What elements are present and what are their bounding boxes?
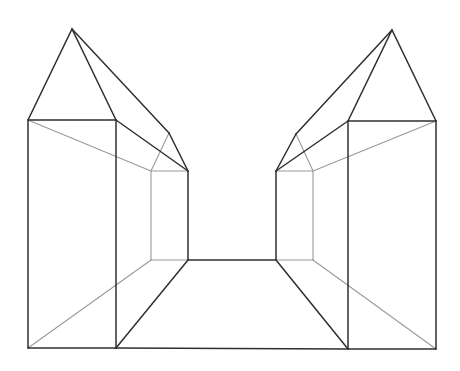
left-hidden-roof-diagonal — [28, 120, 151, 171]
left-roof-back-edge — [169, 133, 188, 171]
right-side-eave — [276, 121, 348, 171]
right-hidden-roof-back — [296, 134, 313, 171]
right-roof-front-gable — [348, 30, 436, 121]
left-hidden-floor-diagonal — [28, 260, 151, 348]
perspective-houses-drawing — [0, 0, 460, 371]
floor-front-edge — [116, 348, 348, 349]
left-house — [28, 29, 188, 348]
right-house — [276, 30, 436, 349]
right-hidden-floor-diagonal — [313, 260, 436, 349]
left-roof-front-gable — [28, 29, 116, 120]
right-roof-ridge — [296, 30, 392, 134]
left-roof-ridge — [72, 29, 169, 133]
left-side-eave — [116, 120, 188, 171]
right-hidden-roof-diagonal — [313, 121, 436, 171]
right-roof-back-edge — [276, 134, 296, 171]
right-floor-edge — [276, 260, 348, 349]
left-floor-edge — [116, 260, 188, 348]
